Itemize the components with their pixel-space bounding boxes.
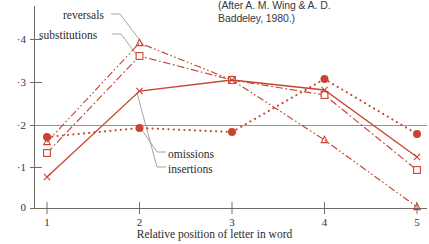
series-annotation-insertions: insertions bbox=[168, 163, 213, 175]
x-axis-label-3: 3 bbox=[224, 216, 240, 228]
series-annotation-omissions: omissions bbox=[168, 148, 214, 160]
source-credit: (After A. M. Wing & A. D. Baddeley, 1980… bbox=[218, 0, 330, 24]
y-axis-label-0point4: ·4 bbox=[4, 33, 26, 45]
x-axis-title: Relative position of letter in word bbox=[0, 228, 429, 240]
series-annotation-reversals: reversals bbox=[63, 9, 104, 21]
series-annotation-substitutions: substitutions bbox=[39, 29, 97, 41]
series-markers-substitutions bbox=[44, 53, 421, 174]
leader-line-substitutions bbox=[112, 34, 139, 58]
leader-line-omissions bbox=[142, 130, 166, 152]
y-axis-label-0point1: ·1 bbox=[4, 161, 26, 173]
chart-container: (After A. M. Wing & A. D. Baddeley, 1980… bbox=[0, 0, 429, 244]
series-line-substitutions bbox=[47, 56, 417, 170]
y-axis-label-0point3: ·3 bbox=[4, 76, 26, 88]
x-axis-label-5: 5 bbox=[409, 216, 425, 228]
y-axis-label-0point2: ·2 bbox=[4, 119, 26, 131]
x-axis-label-4: 4 bbox=[317, 216, 333, 228]
y-axis-label-0: 0 bbox=[4, 201, 26, 213]
leader-line-reversals bbox=[111, 14, 145, 47]
x-axis-label-1: 1 bbox=[39, 216, 55, 228]
series-markers-reversals bbox=[44, 39, 421, 209]
x-axis-label-2: 2 bbox=[132, 216, 148, 228]
